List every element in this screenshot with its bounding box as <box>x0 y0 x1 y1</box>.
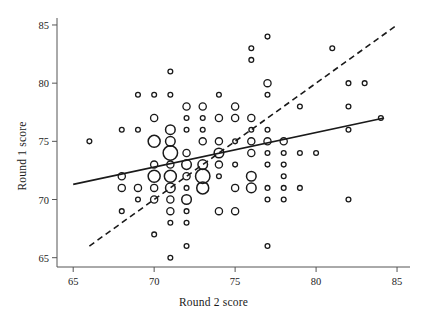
data-point <box>232 208 239 215</box>
data-point <box>281 151 286 156</box>
data-point <box>168 69 173 74</box>
data-point <box>233 139 238 144</box>
data-point <box>362 81 367 86</box>
data-point <box>249 46 254 51</box>
y-axis-title: Round 1 score <box>16 76 28 236</box>
data-point <box>119 127 124 132</box>
data-point <box>215 208 222 215</box>
data-point-markers <box>87 34 383 260</box>
data-point <box>198 160 208 170</box>
data-point <box>167 208 174 215</box>
data-point <box>265 185 270 190</box>
data-point <box>168 92 173 97</box>
data-point <box>346 104 351 109</box>
data-point <box>200 127 205 132</box>
data-point <box>215 114 222 121</box>
data-point <box>136 197 141 202</box>
data-point <box>183 173 190 180</box>
identity-line <box>89 25 397 246</box>
data-point <box>248 138 255 145</box>
data-point <box>199 103 206 110</box>
data-point <box>217 92 222 97</box>
data-point <box>265 127 270 132</box>
data-point <box>314 151 319 156</box>
x-axis-title: Round 2 score <box>0 296 427 308</box>
data-point <box>264 80 271 87</box>
data-point <box>265 197 270 202</box>
data-point <box>87 139 92 144</box>
data-point <box>136 127 141 132</box>
data-point <box>281 197 286 202</box>
x-tick-label-65: 65 <box>68 276 79 287</box>
data-point <box>184 209 189 214</box>
data-point <box>151 184 158 191</box>
data-point <box>136 92 141 97</box>
y-tick-label-65: 65 <box>17 252 49 263</box>
data-point <box>184 185 189 190</box>
data-point <box>166 125 176 135</box>
x-tick-marks <box>73 267 397 272</box>
data-point <box>248 149 255 156</box>
data-point <box>215 161 222 168</box>
data-point <box>265 244 270 249</box>
data-point <box>265 92 270 97</box>
data-point <box>200 116 205 121</box>
x-tick-label-75: 75 <box>230 276 241 287</box>
x-tick-label-85: 85 <box>392 276 403 287</box>
data-point <box>184 220 189 225</box>
data-point <box>199 138 206 145</box>
data-point <box>346 127 351 132</box>
data-point <box>249 127 254 132</box>
data-point <box>233 162 238 167</box>
data-point <box>264 138 271 145</box>
data-point <box>119 209 124 214</box>
data-point <box>265 162 270 167</box>
data-point <box>182 160 192 170</box>
data-point <box>148 170 160 182</box>
data-point <box>217 174 222 179</box>
plot-canvas <box>0 0 427 317</box>
data-point <box>182 195 192 205</box>
data-point <box>164 170 176 182</box>
data-point <box>183 149 190 156</box>
data-point <box>167 196 174 203</box>
data-point <box>215 138 222 145</box>
data-point <box>247 171 257 181</box>
data-point <box>184 127 189 132</box>
scatter-plot-figure: 6570758085 6570758085 Round 2 score Roun… <box>0 0 427 317</box>
data-point <box>232 114 239 121</box>
x-tick-label-80: 80 <box>311 276 322 287</box>
data-point <box>297 104 302 109</box>
data-point <box>281 162 286 167</box>
data-point <box>346 197 351 202</box>
data-point <box>249 57 254 62</box>
data-point <box>152 92 157 97</box>
data-point <box>134 184 141 191</box>
data-point <box>265 34 270 39</box>
data-point <box>168 255 173 260</box>
data-point <box>297 185 302 190</box>
data-point <box>297 151 302 156</box>
data-point <box>346 81 351 86</box>
trend-lines <box>73 25 397 246</box>
data-point <box>232 184 239 191</box>
data-point <box>265 151 270 156</box>
x-tick-label-70: 70 <box>149 276 160 287</box>
data-point <box>166 183 176 193</box>
y-tick-label-85: 85 <box>17 19 49 30</box>
data-point <box>247 183 257 193</box>
data-point <box>232 103 239 110</box>
data-point <box>118 184 125 191</box>
data-point <box>184 116 189 121</box>
data-point <box>166 137 176 147</box>
data-point <box>163 146 177 160</box>
data-point <box>151 196 158 203</box>
data-point <box>184 244 189 249</box>
data-point <box>330 46 335 51</box>
data-point <box>151 114 158 121</box>
data-point <box>168 220 173 225</box>
data-point <box>183 103 190 110</box>
data-point <box>281 185 286 190</box>
data-point <box>148 135 160 147</box>
y-tick-marks <box>52 25 57 258</box>
